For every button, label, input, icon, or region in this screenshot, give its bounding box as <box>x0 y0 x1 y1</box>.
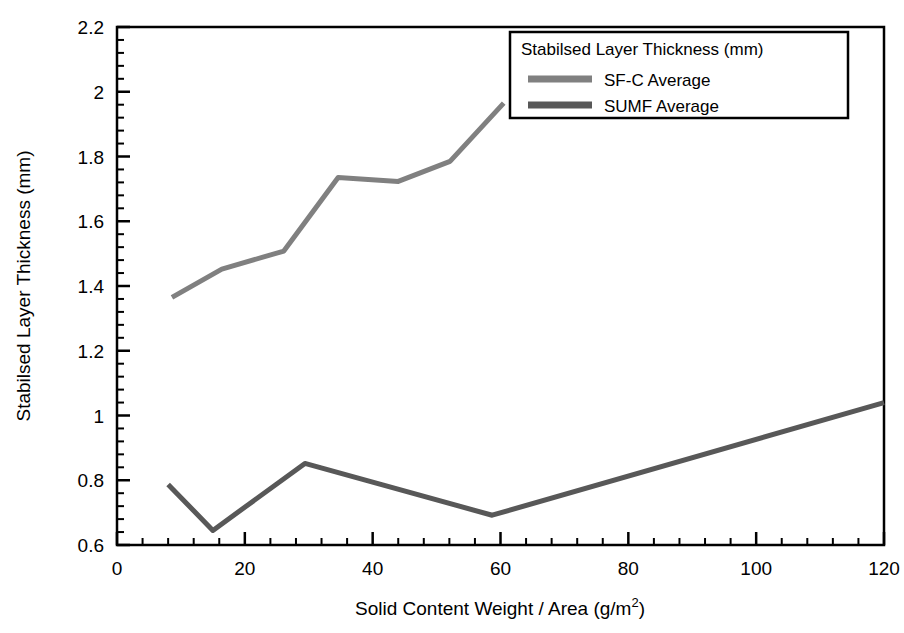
chart-legend: Stabilsed Layer Thickness (mm) SF-C Aver… <box>510 32 848 118</box>
x-axis-title-main: Solid Content Weight / Area (g/m <box>355 598 631 619</box>
x-axis-title: Solid Content Weight / Area (g/m2) <box>355 595 645 619</box>
x-tick-label: 100 <box>740 558 772 579</box>
y-tick-label: 1.6 <box>78 211 104 232</box>
x-tick-label: 40 <box>362 558 383 579</box>
x-tick-label: 20 <box>234 558 255 579</box>
y-tick-label: 1 <box>93 406 104 427</box>
x-axis-title-superscript: 2 <box>631 595 638 610</box>
legend-label-sumf: SUMF Average <box>604 97 719 116</box>
y-tick-label: 2.2 <box>78 17 104 38</box>
y-tick-label: 1.2 <box>78 341 104 362</box>
x-tick-label: 0 <box>112 558 123 579</box>
chart-container: 020406080100120 0.60.811.21.41.61.822.2 … <box>0 0 904 633</box>
y-tick-label: 1.8 <box>78 147 104 168</box>
y-tick-label: 0.8 <box>78 470 104 491</box>
x-tick-label: 80 <box>618 558 639 579</box>
y-tick-label: 1.4 <box>78 276 105 297</box>
x-tick-label: 60 <box>490 558 511 579</box>
line-chart: 020406080100120 0.60.811.21.41.61.822.2 … <box>0 0 904 633</box>
y-tick-label: 0.6 <box>78 535 104 556</box>
x-axis-title-tail: ) <box>639 598 645 619</box>
legend-title: Stabilsed Layer Thickness (mm) <box>521 40 764 59</box>
y-tick-label: 2 <box>93 82 104 103</box>
y-axis-title: Stabilsed Layer Thickness (mm) <box>13 150 34 421</box>
x-tick-label: 120 <box>868 558 900 579</box>
legend-label-sf-c: SF-C Average <box>604 71 710 90</box>
